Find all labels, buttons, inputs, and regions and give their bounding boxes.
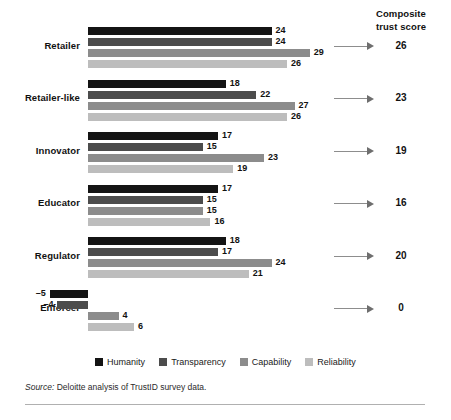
bar-row: 19 xyxy=(0,165,451,173)
chart-legend: HumanityTransparencyCapabilityReliabilit… xyxy=(0,357,451,367)
bar-value-label: 15 xyxy=(207,141,217,151)
bar-row: 21 xyxy=(0,270,451,278)
bar-humanity xyxy=(88,185,218,193)
bar-value-label: 18 xyxy=(230,235,240,245)
bar-value-label: 19 xyxy=(237,163,247,173)
bar-value-label: –4 xyxy=(35,299,53,309)
legend-label: Humanity xyxy=(107,357,145,367)
bar-value-label: –5 xyxy=(28,288,46,298)
bar-group: Innovator1715231919 xyxy=(0,132,451,176)
bar-value-label: 4 xyxy=(123,310,128,320)
bar-value-label: 23 xyxy=(268,152,278,162)
composite-score-value: 0 xyxy=(355,302,447,313)
bottom-divider xyxy=(25,404,425,405)
legend-swatch-reliability xyxy=(305,358,313,366)
bar-value-label: 26 xyxy=(291,58,301,68)
bar-group: Retailer2424292626 xyxy=(0,27,451,71)
bar-row: 18 xyxy=(0,237,451,245)
bar-transparency xyxy=(88,143,203,151)
legend-item: Capability xyxy=(240,357,292,367)
bar-capability xyxy=(88,154,264,162)
legend-item: Humanity xyxy=(95,357,145,367)
bar-value-label: 16 xyxy=(214,216,224,226)
bar-capability xyxy=(88,49,310,57)
bar-value-label: 24 xyxy=(276,25,286,35)
bar-value-label: 21 xyxy=(253,268,263,278)
bar-value-label: 22 xyxy=(260,89,270,99)
bar-value-label: 15 xyxy=(207,194,217,204)
legend-label: Transparency xyxy=(171,357,226,367)
bar-transparency xyxy=(57,301,88,309)
plot-area: Retailer2424292626Retailer-like182227262… xyxy=(0,0,451,355)
bar-value-label: 17 xyxy=(222,183,232,193)
bar-value-label: 29 xyxy=(314,47,324,57)
bar-transparency xyxy=(88,196,203,204)
bar-reliability xyxy=(88,60,287,68)
bar-value-label: 17 xyxy=(222,246,232,256)
composite-score-value: 16 xyxy=(355,197,447,208)
bar-reliability xyxy=(88,165,233,173)
bar-value-label: 24 xyxy=(276,36,286,46)
bar-transparency xyxy=(88,248,218,256)
bar-value-label: 24 xyxy=(276,257,286,267)
bar-reliability xyxy=(88,323,134,331)
bar-humanity xyxy=(50,290,88,298)
source-prefix: Source: xyxy=(25,382,54,392)
bar-transparency xyxy=(88,38,272,46)
bar-reliability xyxy=(88,113,287,121)
bar-group: Educator1715151616 xyxy=(0,185,451,229)
legend-swatch-capability xyxy=(240,358,248,366)
bar-value-label: 15 xyxy=(207,205,217,215)
legend-item: Reliability xyxy=(305,357,356,367)
bar-group: Regulator1817242120 xyxy=(0,237,451,281)
bar-humanity xyxy=(88,27,272,35)
bar-reliability xyxy=(88,270,249,278)
trust-score-bar-chart: Composite trust score Retailer2424292626… xyxy=(0,0,451,420)
bar-row: 17 xyxy=(0,185,451,193)
bar-row: –5 xyxy=(0,290,451,298)
bar-row: 26 xyxy=(0,113,451,121)
bar-capability xyxy=(88,312,119,320)
bar-humanity xyxy=(88,237,226,245)
bar-value-label: 17 xyxy=(222,130,232,140)
bar-humanity xyxy=(88,132,218,140)
composite-score-value: 26 xyxy=(355,40,447,51)
legend-swatch-transparency xyxy=(159,358,167,366)
composite-score-value: 23 xyxy=(355,92,447,103)
composite-score-value: 19 xyxy=(355,145,447,156)
bar-row: 18 xyxy=(0,80,451,88)
bar-row: 24 xyxy=(0,27,451,35)
bar-row: 17 xyxy=(0,132,451,140)
legend-item: Transparency xyxy=(159,357,226,367)
bar-value-label: 27 xyxy=(299,100,309,110)
legend-swatch-humanity xyxy=(95,358,103,366)
bar-capability xyxy=(88,259,272,267)
legend-label: Capability xyxy=(252,357,292,367)
bar-value-label: 26 xyxy=(291,111,301,121)
bar-value-label: 18 xyxy=(230,78,240,88)
bar-row: 26 xyxy=(0,60,451,68)
composite-score-value: 20 xyxy=(355,250,447,261)
bar-transparency xyxy=(88,91,256,99)
bar-capability xyxy=(88,102,295,110)
bar-group: Enforcer–5–4460 xyxy=(0,290,451,334)
bar-group: Retailer-like1822272623 xyxy=(0,80,451,124)
bar-row: 6 xyxy=(0,323,451,331)
bar-reliability xyxy=(88,218,210,226)
source-text: Deloitte analysis of TrustID survey data… xyxy=(57,382,207,392)
bar-row: 16 xyxy=(0,218,451,226)
bar-humanity xyxy=(88,80,226,88)
legend-label: Reliability xyxy=(317,357,356,367)
bar-capability xyxy=(88,207,203,215)
source-note: Source: Deloitte analysis of TrustID sur… xyxy=(25,382,206,392)
bar-value-label: 6 xyxy=(138,321,143,331)
